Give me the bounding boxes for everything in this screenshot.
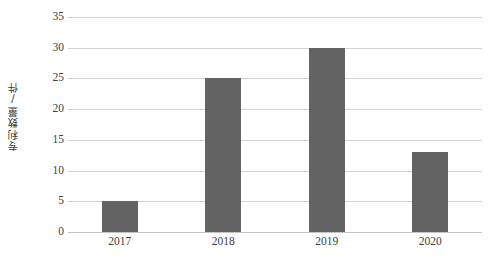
y-axis-tick-labels: 05101520253035 (24, 17, 64, 232)
bar (412, 152, 448, 232)
y-axis-tick-label: 5 (30, 196, 64, 208)
y-axis-tick-label: 30 (30, 42, 64, 54)
y-axis-title: 专利数量/件 (0, 0, 24, 232)
x-axis-tick-label: 2020 (385, 236, 475, 248)
gridline (68, 232, 482, 233)
bar (205, 78, 241, 232)
y-axis-tick-label: 35 (30, 11, 64, 23)
x-axis-tick-label: 2017 (75, 236, 165, 248)
bar (102, 201, 138, 232)
bar-chart: 专利数量/件 05101520253035 2017201820192020 (0, 0, 490, 272)
y-axis-tick-label: 10 (30, 165, 64, 177)
x-axis-tick-label: 2019 (282, 236, 372, 248)
x-axis-tick-labels: 2017201820192020 (68, 236, 482, 258)
y-axis-tick-label: 15 (30, 134, 64, 146)
y-axis-title-text: 专利数量/件 (5, 81, 20, 151)
y-axis-tick-label: 25 (30, 73, 64, 85)
y-axis-tick-label: 0 (30, 226, 64, 238)
x-axis-tick-label: 2018 (178, 236, 268, 248)
bars-layer (68, 17, 482, 232)
bar (309, 48, 345, 232)
y-axis-tick-label: 20 (30, 103, 64, 115)
